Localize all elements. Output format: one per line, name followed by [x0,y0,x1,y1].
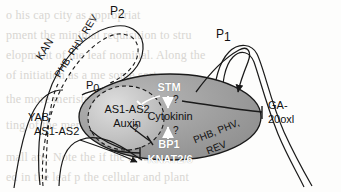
label-stm: STM [146,82,192,94]
label-as1as2-outer: AS1-AS2 [34,126,79,138]
label-question-top: ? [173,95,179,106]
label-bp1: BP1 [148,139,190,151]
label-p1: P1 [216,28,231,41]
label-p2: P2 [110,5,125,18]
label-question-inner: ? [133,124,139,135]
label-ga20oxl-line1: GA- [268,100,288,112]
label-yab: YAB [28,112,49,124]
label-question-bottom: ? [173,126,179,137]
label-knat26: KNAT2/6 [137,154,203,166]
label-p0: P0 [86,80,99,92]
figure-root: o his cap city as appropriat pment the m… [0,0,341,192]
label-ga20oxl-line2: 20oxl [268,114,294,126]
label-cytokinin: Cytokinin [137,111,203,123]
